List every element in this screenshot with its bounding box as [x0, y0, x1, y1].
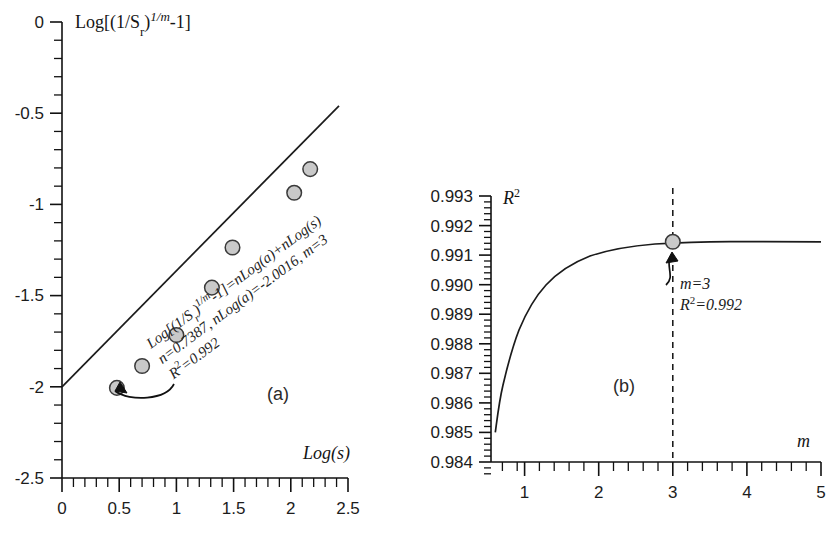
panel-b-x-axis-title: m — [797, 431, 810, 451]
panel-b: 0.993 0.992 0.991 0.990 0.989 0.988 0.98… — [430, 186, 825, 502]
panel-a-ytick-0: 0 — [35, 13, 44, 32]
panel-a-ylabel-sup: 1/m — [150, 9, 170, 24]
data-point — [303, 162, 318, 177]
panel-a-x-axis-title: Log(s) — [302, 443, 350, 464]
panel-b-ytick-4: 0.989 — [430, 305, 473, 324]
panel-b-r2-curve — [495, 242, 821, 433]
panel-b-ytick-0: 0.993 — [430, 187, 473, 206]
panel-b-ytick-9: 0.984 — [430, 453, 473, 472]
panel-b-xtick-2: 3 — [668, 483, 677, 502]
panel-a-tag: (a) — [267, 384, 289, 404]
panel-a-equation-line1: Log[(1/Sr)1/m-1]=nLog(a)+nLog(s) — [141, 210, 327, 356]
panel-a-xtick-3: 1.5 — [222, 499, 246, 518]
panel-b-xtick-0: 1 — [520, 483, 529, 502]
figure-svg: 0 -0.5 -1 -1.5 -2 -2.5 — [0, 0, 839, 538]
panel-b-ytick-6: 0.987 — [430, 364, 473, 383]
figure-container: 0 -0.5 -1 -1.5 -2 -2.5 — [0, 0, 839, 538]
panel-b-xtick-4: 5 — [816, 483, 825, 502]
panel-b-xtick-3: 4 — [742, 483, 751, 502]
panel-b-ytick-2: 0.991 — [430, 246, 473, 265]
panel-a: 0 -0.5 -1 -1.5 -2 -2.5 — [15, 9, 360, 519]
panel-b-ylabel: R — [502, 188, 514, 208]
panel-a-xtick-5: 2.5 — [336, 499, 360, 518]
panel-a-equation-block: Log[(1/Sr)1/m-1]=nLog(a)+nLog(s) n=0.738… — [141, 210, 347, 383]
panel-b-ylabel-sup: 2 — [514, 186, 520, 200]
panel-a-y-minor-ticks — [54, 40, 62, 460]
panel-b-y-major-ticks — [479, 196, 491, 462]
panel-a-x-major-ticks — [62, 478, 348, 492]
panel-a-xtick-0: 0 — [57, 499, 66, 518]
panel-a-ytick-3: -1.5 — [15, 286, 44, 305]
data-point — [287, 186, 302, 201]
panel-b-tag: (b) — [613, 376, 635, 396]
panel-a-xtick-1: 0.5 — [107, 499, 131, 518]
panel-b-ytick-3: 0.990 — [430, 276, 473, 295]
panel-b-ytick-5: 0.988 — [430, 335, 473, 354]
panel-a-x-minor-ticks — [73, 478, 336, 487]
panel-b-highlight-point — [666, 235, 681, 250]
panel-a-equation-line2: n=0.7387, nLog(a)=-2.0016, m=3 — [155, 231, 332, 368]
panel-b-annotation-m: m=3 — [680, 275, 710, 292]
panel-a-ytick-2: -1 — [29, 195, 44, 214]
panel-a-xtick-2: 1 — [172, 499, 181, 518]
panel-b-x-minor-ticks — [502, 462, 806, 471]
panel-a-y-major-ticks — [50, 22, 62, 478]
panel-b-ytick-8: 0.985 — [430, 423, 473, 442]
panel-b-annotation-r2: R2=0.992 — [679, 294, 742, 313]
panel-a-data-points — [110, 162, 318, 395]
panel-a-ylabel-end: -1] — [170, 12, 191, 32]
panel-b-y-axis-title: R2 — [502, 186, 520, 208]
panel-b-annotation-arrow — [666, 252, 678, 285]
arrow-head-icon — [666, 252, 678, 263]
panel-a-ytick-1: -0.5 — [15, 104, 44, 123]
annot-r2-p2: =0.992 — [695, 296, 742, 313]
panel-a-xtick-4: 2 — [286, 499, 295, 518]
data-point — [225, 240, 240, 255]
data-point — [135, 359, 150, 374]
annot-r2-p1: R — [679, 296, 690, 313]
panel-b-xtick-1: 2 — [594, 483, 603, 502]
panel-a-y-axis-title: Log[(1/Sr)1/m-1] — [75, 9, 191, 39]
panel-a-ylabel-p1: Log[(1/S — [75, 12, 140, 33]
panel-a-ytick-4: -2 — [29, 378, 44, 397]
panel-a-ytick-5: -2.5 — [15, 469, 44, 488]
panel-b-ytick-1: 0.992 — [430, 217, 473, 236]
panel-b-ytick-7: 0.986 — [430, 394, 473, 413]
